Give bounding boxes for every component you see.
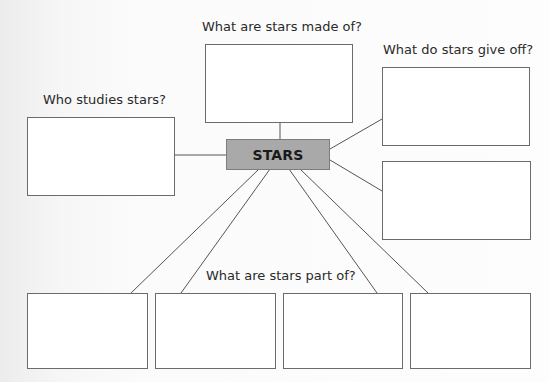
- connector-give-off-1: [330, 119, 382, 149]
- answer-box-give-off-1[interactable]: [382, 67, 530, 146]
- question-part-of: What are stars part of?: [206, 268, 356, 284]
- answer-box-part-of-1[interactable]: [27, 293, 148, 369]
- question-who-studies: Who studies stars?: [43, 92, 166, 108]
- center-node-label: STARS: [252, 147, 303, 163]
- question-give-off: What do stars give off?: [383, 42, 533, 58]
- answer-box-part-of-3[interactable]: [283, 293, 403, 369]
- answer-box-made-of[interactable]: [205, 44, 353, 123]
- center-node-stars: STARS: [226, 139, 330, 170]
- answer-box-give-off-2[interactable]: [382, 161, 531, 240]
- question-made-of: What are stars made of?: [202, 19, 362, 35]
- stars-concept-map: What are stars made of? What do stars gi…: [0, 0, 549, 382]
- answer-box-part-of-4[interactable]: [410, 293, 531, 369]
- connector-give-off-2: [330, 160, 382, 191]
- answer-box-who-studies[interactable]: [27, 117, 175, 196]
- answer-box-part-of-2[interactable]: [155, 293, 276, 369]
